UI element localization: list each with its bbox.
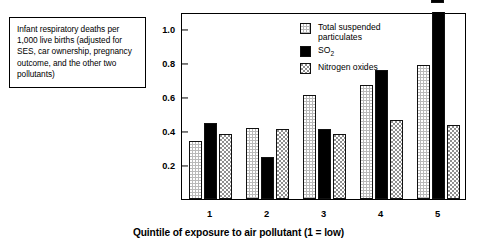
- bar-check-q4: [390, 120, 403, 199]
- caption-box: Infant respiratory deaths per 1,000 live…: [9, 17, 146, 88]
- bar-solid-q3: [318, 129, 331, 199]
- y-axis-tick: [181, 131, 188, 132]
- x-axis-tick-label: 5: [435, 208, 440, 219]
- legend-swatch-check: [300, 63, 311, 74]
- chart-page: Infant respiratory deaths per 1,000 live…: [0, 0, 477, 249]
- x-axis-tick-label: 2: [264, 208, 269, 219]
- y-axis-tick: [181, 29, 188, 30]
- bar-overflow-solid-q5: [431, 0, 444, 3]
- y-axis-tick: [181, 63, 188, 64]
- caption-text: Infant respiratory deaths per 1,000 live…: [17, 24, 138, 80]
- bar-solid-q2: [261, 157, 274, 200]
- y-axis-tick: [181, 165, 188, 166]
- legend-swatch-dot: [300, 23, 311, 34]
- y-axis-tick-label: 0.2: [162, 161, 175, 171]
- y-axis-tick-label: 0.4: [162, 127, 175, 137]
- bar-check-q1: [219, 134, 232, 199]
- bar-solid-q4: [375, 70, 388, 199]
- bar-dot-q4: [360, 85, 373, 199]
- x-axis-title: Quintile of exposure to air pollutant (1…: [0, 227, 477, 238]
- chart-legend: Total suspended particulatesSO2Nitrogen …: [300, 22, 450, 77]
- bar-check-q5: [447, 125, 460, 199]
- x-axis-tick-label: 4: [378, 208, 383, 219]
- x-axis-tick-label: 3: [321, 208, 326, 219]
- legend-item: Nitrogen oxides: [300, 62, 450, 74]
- legend-item: SO2: [300, 45, 450, 59]
- legend-label: SO2: [318, 45, 334, 59]
- bar-dot-q3: [303, 95, 316, 199]
- y-axis-tick-label: 0.8: [162, 59, 175, 69]
- bar-solid-q1: [204, 123, 217, 200]
- y-axis-tick: [181, 97, 188, 98]
- bar-dot-q1: [189, 141, 202, 199]
- y-axis-tick-label: 1.0: [162, 25, 175, 35]
- legend-label: Nitrogen oxides: [318, 62, 378, 72]
- x-axis-tick-label: 1: [207, 208, 212, 219]
- y-axis-tick-label: 0.6: [162, 93, 175, 103]
- bar-dot-q5: [417, 65, 430, 199]
- legend-swatch-solid: [300, 46, 311, 57]
- bar-check-q2: [276, 129, 289, 199]
- bar-dot-q2: [246, 128, 259, 199]
- bar-check-q3: [333, 134, 346, 199]
- legend-label: Total suspended particulates: [318, 22, 381, 42]
- legend-item: Total suspended particulates: [300, 22, 450, 42]
